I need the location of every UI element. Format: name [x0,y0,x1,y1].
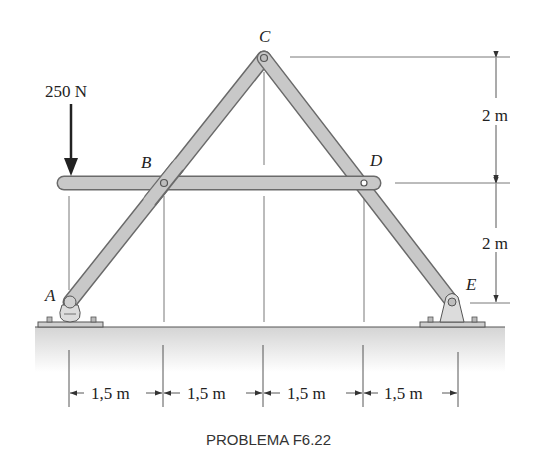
figure-caption: PROBLEMA F6.22 [206,431,331,448]
vdim-label-top: 2 m [482,106,508,125]
hdim-label-1: 1,5 m [91,384,130,403]
hdim-label-3: 1,5 m [287,384,326,403]
hdim-label-4: 1,5 m [384,384,423,403]
ground [35,327,505,372]
joint-label-b: B [141,153,152,172]
truss-diagram: 250 N C B D A E 2 m 2 m 1,5 m 1,5 m 1,5 … [0,0,550,474]
pin-d [361,180,367,186]
hdim-label-2: 1,5 m [187,384,226,403]
joint-label-a: A [44,286,56,305]
joint-label-c: C [259,27,271,46]
support-e [420,294,485,328]
load-arrow-icon [64,104,78,176]
load-label: 250 N [45,82,87,101]
pin-c [261,55,268,62]
vdim-label-bottom: 2 m [482,234,508,253]
pin-b [161,180,168,187]
joint-label-d: D [369,151,383,170]
joint-label-e: E [465,275,477,294]
